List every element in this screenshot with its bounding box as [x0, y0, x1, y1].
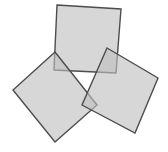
overlapping-squares-figure [0, 0, 168, 152]
figure-canvas [0, 0, 168, 152]
